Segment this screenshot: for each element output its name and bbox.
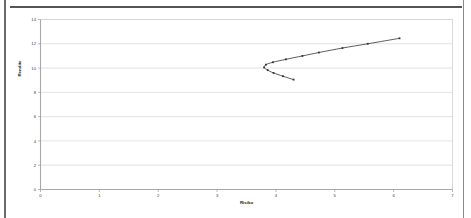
data-point-marker <box>273 72 275 74</box>
data-point-marker <box>282 75 284 77</box>
x-tick-label: 7 <box>451 193 454 198</box>
y-axis-title: Rendite <box>17 60 22 77</box>
series-paths-group <box>264 38 399 79</box>
data-point-marker <box>285 58 287 60</box>
x-axis-title: Risiko <box>240 200 253 205</box>
data-point-marker <box>272 61 274 63</box>
gridlines-group <box>41 20 453 166</box>
x-tick-label: 3 <box>216 193 219 198</box>
data-point-marker <box>318 52 320 54</box>
data-point-marker <box>342 47 344 49</box>
chart-canvas: 01234567 02468101214 Risiko Rendite <box>0 0 471 218</box>
efficient-frontier-chart: 01234567 02468101214 Risiko Rendite <box>0 0 471 218</box>
data-point-marker <box>263 67 265 69</box>
data-point-marker <box>302 55 304 57</box>
data-point-marker <box>293 79 295 81</box>
document-page: 01234567 02468101214 Risiko Rendite <box>0 0 471 218</box>
y-tick-label: 14 <box>31 17 36 22</box>
data-point-marker <box>265 64 267 66</box>
x-tick-label: 6 <box>392 193 395 198</box>
x-tick-label: 4 <box>275 193 278 198</box>
x-axis-ticks-group: 01234567 <box>39 190 454 198</box>
y-axis-ticks-group: 02468101214 <box>31 17 40 192</box>
x-tick-label: 1 <box>98 193 101 198</box>
y-tick-label: 12 <box>31 41 36 46</box>
y-tick-label: 6 <box>34 114 37 119</box>
y-tick-label: 2 <box>34 163 37 168</box>
y-tick-label: 4 <box>34 139 37 144</box>
series-line <box>264 38 399 79</box>
plot-frame-group <box>41 20 453 190</box>
data-point-marker <box>399 37 401 39</box>
y-tick-label: 10 <box>31 66 36 71</box>
data-point-marker <box>267 69 269 71</box>
data-point-marker <box>367 43 369 45</box>
y-tick-label: 0 <box>34 187 37 192</box>
x-tick-label: 2 <box>157 193 160 198</box>
x-tick-label: 5 <box>334 193 337 198</box>
x-tick-label: 0 <box>39 193 42 198</box>
y-tick-label: 8 <box>34 90 37 95</box>
